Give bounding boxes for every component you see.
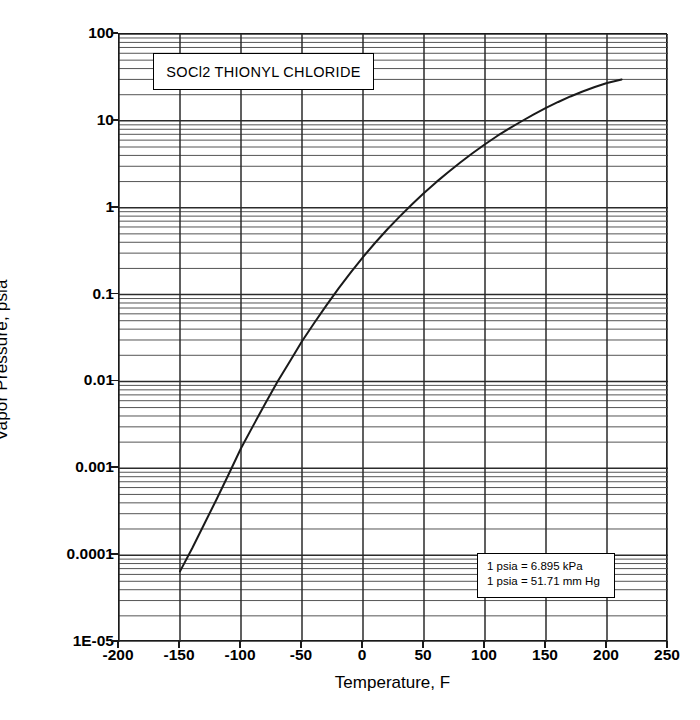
y-axis-tick-label: 0.0001 [67, 545, 114, 563]
y-axis-tick-mark [111, 206, 118, 208]
chart-title-text: SOCl2 THIONYL CHLORIDE [166, 64, 360, 80]
x-axis-tick-label: 50 [414, 646, 431, 664]
y-axis-tick-label: 0.001 [75, 458, 114, 476]
note-line-2: 1 psia = 51.71 mm Hg [487, 574, 614, 589]
x-axis-tick-label: -50 [290, 646, 312, 664]
x-axis-tick-label: 150 [532, 646, 558, 664]
y-axis-title-text: Vapor Pressure, psia [0, 279, 48, 440]
x-axis-tick-mark [605, 641, 607, 648]
x-axis-tick-mark [666, 641, 668, 648]
x-axis-tick-label: 0 [358, 646, 367, 664]
y-axis-tick-mark [111, 293, 118, 295]
chart-page: Vapor Pressure, psia SOCl2 THIONYL CHLOR… [0, 0, 700, 720]
x-axis-tick-label: 200 [593, 646, 619, 664]
plot-area [118, 33, 667, 641]
x-axis-tick-mark [422, 641, 424, 648]
x-axis-tick-mark [239, 641, 241, 648]
note-line-1: 1 psia = 6.895 kPa [487, 559, 614, 574]
y-axis-tick-mark [111, 466, 118, 468]
x-axis-tick-label: -100 [224, 646, 255, 664]
y-axis-tick-mark [111, 553, 118, 555]
x-axis-tick-label: -150 [163, 646, 194, 664]
x-axis-tick-label: 250 [654, 646, 680, 664]
y-axis-tick-mark [111, 32, 118, 34]
y-axis-tick-mark [111, 119, 118, 121]
x-axis-tick-label: -200 [102, 646, 133, 664]
unit-conversion-note-box: 1 psia = 6.895 kPa 1 psia = 51.71 mm Hg [477, 553, 615, 598]
x-axis-tick-mark [544, 641, 546, 648]
chart-title-box: SOCl2 THIONYL CHLORIDE [153, 53, 374, 90]
x-axis-tick-mark [178, 641, 180, 648]
x-axis-title: Temperature, F [118, 673, 667, 693]
vapor-pressure-curve [119, 34, 668, 642]
x-axis-tick-mark [483, 641, 485, 648]
y-axis-title: Vapor Pressure, psia [0, 0, 40, 720]
y-axis-tick-mark [111, 380, 118, 382]
x-axis-tick-mark [300, 641, 302, 648]
x-axis-tick-mark [361, 641, 363, 648]
x-axis-tick-mark [117, 641, 119, 648]
y-axis-tick-label: 0.01 [84, 371, 114, 389]
x-axis-tick-label: 100 [471, 646, 497, 664]
